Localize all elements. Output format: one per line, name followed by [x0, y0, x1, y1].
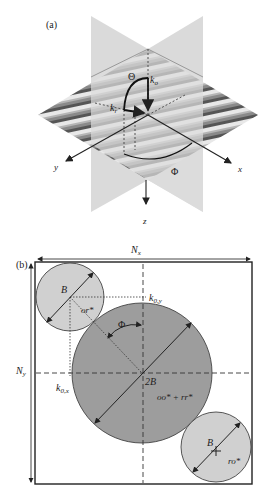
panel-a-label: (a): [46, 19, 57, 31]
ny-label: Ny: [15, 365, 27, 378]
ro-term-label: ro*: [228, 456, 241, 466]
panel-a: (a) x y z: [38, 16, 258, 226]
ro-radius-label: B: [207, 437, 213, 448]
center-radius-label: 2B: [145, 376, 156, 387]
theta-label: Θ: [128, 71, 135, 82]
center-term-label: oo* + rr*: [157, 392, 193, 402]
nx-label: Nx: [130, 244, 142, 257]
phi-label-b: Φ: [118, 319, 125, 330]
y-axis-label: y: [53, 162, 58, 172]
or-radius-label: B: [61, 284, 67, 295]
panel-b-label: (b): [16, 259, 28, 271]
or-term-label: or*: [81, 305, 94, 315]
figure: (a) x y z: [0, 0, 268, 502]
k0y-label: k0,y: [149, 292, 163, 305]
z-axis-label: z: [142, 216, 147, 226]
phi-label-a: Φ: [171, 166, 178, 177]
x-axis-label: x: [237, 164, 242, 174]
k0x-label: k0,x: [56, 382, 70, 395]
panel-b: (b) Nx Ny Φ: [15, 244, 252, 484]
